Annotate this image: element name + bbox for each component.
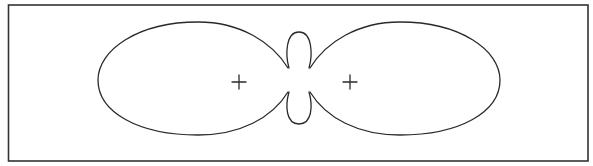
right-plus-marker bbox=[343, 75, 357, 89]
right-major-lobe bbox=[310, 22, 500, 135]
lower-minor-lobe bbox=[287, 92, 311, 124]
lobe-pattern-diagram bbox=[0, 0, 593, 166]
left-plus-marker bbox=[232, 75, 246, 89]
left-major-lobe bbox=[98, 22, 288, 135]
upper-minor-lobe bbox=[287, 32, 311, 68]
diagram-frame bbox=[9, 5, 589, 161]
